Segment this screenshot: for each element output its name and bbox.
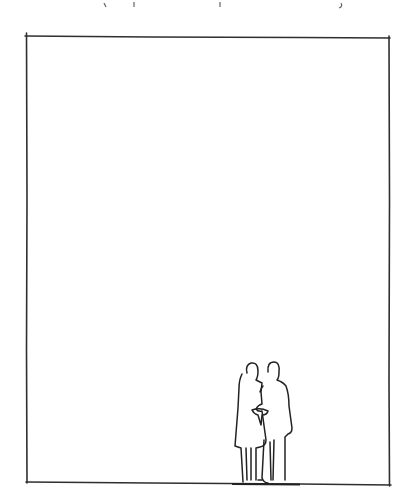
frame-left-edge xyxy=(27,33,28,483)
sketch-diagram xyxy=(0,0,414,502)
frame-bottom-edge xyxy=(26,482,391,485)
ground-line xyxy=(232,484,300,485)
human-figures xyxy=(235,362,292,483)
frame-rectangle xyxy=(25,33,391,486)
frame-right-edge xyxy=(389,36,390,486)
frame-top-edge xyxy=(25,36,390,38)
cropped-text-descenders xyxy=(104,2,342,8)
